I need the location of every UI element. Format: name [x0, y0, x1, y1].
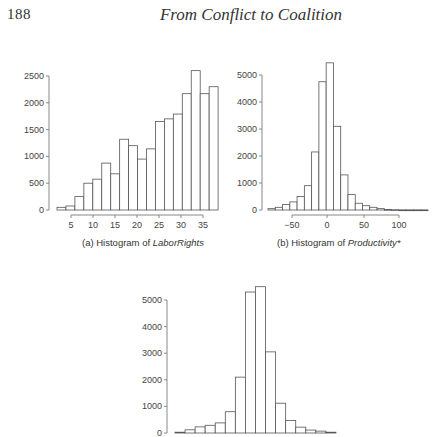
histogram-bar: [355, 203, 362, 210]
caption-b-variable: Productivity*: [348, 237, 401, 248]
y-tick-label: 2000: [142, 375, 162, 385]
y-tick-label: 2000: [24, 98, 44, 108]
histogram-bar: [377, 209, 384, 210]
histogram-bar: [147, 149, 156, 210]
histogram-bar: [175, 432, 185, 433]
histogram-bar: [195, 427, 205, 433]
y-tick-label: 1000: [142, 401, 162, 411]
x-tick-label: 100: [391, 220, 406, 230]
histogram-bar: [326, 432, 336, 433]
histogram-bar: [399, 210, 406, 211]
x-tick-label: 35: [198, 220, 208, 230]
histogram-bar: [297, 197, 304, 211]
y-tick-label: 5000: [237, 70, 257, 80]
histogram-bar: [304, 186, 311, 210]
histogram-bar: [333, 126, 340, 210]
x-tick-label: 5: [68, 220, 73, 230]
caption-a: (a) Histogram of LaborRights: [82, 237, 204, 248]
y-tick-label: 5000: [142, 295, 162, 305]
histogram-figures: 050010001500200025005101520253035 010002…: [0, 0, 442, 437]
y-tick-label: 0: [157, 428, 162, 437]
histogram-bar: [286, 420, 296, 433]
histogram-bar: [205, 425, 215, 433]
histogram-bar: [421, 210, 428, 211]
y-tick-label: 3000: [142, 348, 162, 358]
x-tick-label: −50: [284, 220, 299, 230]
x-tick-label: 10: [88, 220, 98, 230]
histogram-bar: [209, 87, 218, 210]
caption-a-variable: LaborRights: [153, 237, 204, 248]
histogram-bar: [111, 174, 120, 210]
histogram-bar: [268, 209, 275, 210]
caption-b-prefix: (b) Histogram of: [277, 237, 348, 248]
histogram-bar: [370, 207, 377, 210]
y-tick-label: 0: [252, 205, 257, 215]
histogram-bar: [155, 122, 164, 210]
histogram-bar: [120, 139, 129, 210]
histogram-bar: [164, 119, 173, 210]
histogram-bar: [283, 205, 290, 210]
histogram-third: 010002000300040005000: [142, 287, 336, 437]
histogram-bar: [235, 377, 245, 433]
y-tick-label: 3000: [237, 124, 257, 134]
y-tick-label: 1000: [237, 178, 257, 188]
histogram-bar: [341, 175, 348, 210]
caption-b: (b) Histogram of Productivity*: [277, 237, 401, 248]
histogram-bar: [185, 430, 195, 433]
histogram-bar: [348, 195, 355, 210]
histogram-bar: [182, 94, 191, 210]
histogram-laborrights: 050010001500200025005101520253035: [24, 71, 218, 230]
histogram-bar: [138, 159, 147, 210]
histogram-bar: [275, 207, 282, 210]
histogram-bar: [66, 206, 75, 210]
histogram-bar: [319, 82, 326, 210]
x-tick-label: 15: [110, 220, 120, 230]
histogram-bar: [215, 423, 225, 433]
histogram-productivity: 010002000300040005000−50050100: [237, 63, 428, 230]
y-tick-label: 4000: [237, 97, 257, 107]
histogram-bar: [75, 197, 84, 210]
histogram-bar: [316, 431, 326, 433]
histogram-bar: [245, 292, 255, 433]
histogram-bar: [406, 210, 413, 211]
histogram-bar: [363, 206, 370, 210]
histogram-bar: [200, 94, 209, 210]
histogram-bar: [57, 207, 66, 210]
histogram-bar: [326, 63, 333, 210]
histogram-bar: [255, 287, 265, 433]
y-tick-label: 1000: [24, 151, 44, 161]
histogram-bar: [276, 403, 286, 433]
y-tick-label: 4000: [142, 322, 162, 332]
histogram-bar: [392, 210, 399, 211]
histogram-bar: [173, 114, 182, 210]
y-tick-label: 500: [29, 178, 44, 188]
x-tick-label: 25: [154, 220, 164, 230]
histogram-bar: [312, 152, 319, 210]
histogram-bar: [266, 352, 276, 433]
x-tick-label: 30: [176, 220, 186, 230]
x-tick-label: 0: [324, 220, 329, 230]
x-tick-label: 50: [359, 220, 369, 230]
histogram-bar: [191, 71, 200, 210]
histogram-bar: [384, 209, 391, 210]
y-tick-label: 2500: [24, 71, 44, 81]
histogram-bar: [129, 146, 138, 210]
histogram-bar: [296, 427, 306, 433]
histogram-bar: [306, 430, 316, 433]
histogram-bar: [225, 412, 235, 433]
x-tick-label: 20: [132, 220, 142, 230]
y-tick-label: 2000: [237, 151, 257, 161]
y-tick-label: 0: [39, 205, 44, 215]
histogram-bar: [84, 183, 93, 210]
histogram-bar: [413, 210, 420, 211]
histogram-bar: [102, 163, 111, 210]
histogram-bar: [93, 179, 102, 210]
caption-a-prefix: (a) Histogram of: [82, 237, 153, 248]
y-tick-label: 1500: [24, 125, 44, 135]
histogram-bar: [290, 202, 297, 210]
